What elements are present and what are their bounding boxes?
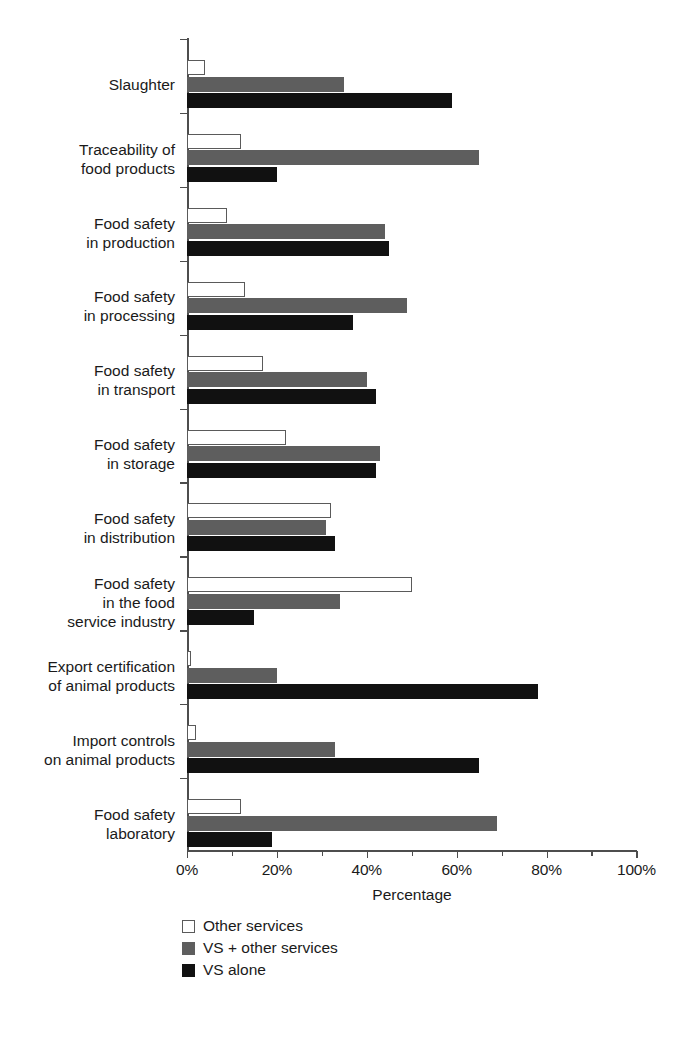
x-axis-minor-tick [232, 851, 233, 856]
bar-vs-alone [187, 536, 335, 551]
bar-vs-alone [187, 832, 272, 847]
x-axis-minor-tick [591, 851, 592, 856]
y-axis-tick [180, 335, 187, 336]
bar-vs-alone [187, 93, 452, 108]
y-axis-tick [180, 187, 187, 188]
bar-vs-plus-other-services [187, 150, 479, 165]
bar-vs-alone [187, 315, 353, 330]
legend-label: Other services [203, 917, 303, 935]
x-axis-tick [277, 851, 278, 858]
bar-vs-plus-other-services [187, 224, 385, 239]
category-label: Food safety in transport [0, 361, 175, 399]
legend-item: Other services [182, 915, 338, 937]
bar-vs-plus-other-services [187, 668, 277, 683]
bar-other-services [187, 725, 196, 740]
bar-vs-plus-other-services [187, 372, 367, 387]
legend-item: VS alone [182, 959, 338, 981]
bar-vs-plus-other-services [187, 594, 340, 609]
category-label: Slaughter [0, 75, 175, 94]
bar-vs-alone [187, 758, 479, 773]
x-axis-minor-tick [322, 851, 323, 856]
category-label: Traceability of food products [0, 140, 175, 178]
category-label: Export certification of animal products [0, 657, 175, 695]
legend-swatch-icon [182, 942, 195, 955]
bar-vs-plus-other-services [187, 298, 407, 313]
x-axis-tick-label: 80% [531, 861, 561, 879]
category-label: Food safety in the food service industry [0, 574, 175, 631]
plot-area [187, 38, 637, 850]
x-axis-tick-label: 20% [262, 861, 292, 879]
bar-vs-plus-other-services [187, 77, 344, 92]
category-label: Food safety in storage [0, 435, 175, 473]
x-axis-minor-tick [502, 851, 503, 856]
category-label: Food safety in production [0, 214, 175, 252]
bar-other-services [187, 356, 263, 371]
y-axis-tick [180, 778, 187, 779]
legend-label: VS + other services [203, 939, 338, 957]
y-axis-tick [180, 704, 187, 705]
y-axis-tick [180, 409, 187, 410]
x-axis-tick-label: 100% [617, 861, 656, 879]
x-axis-tick-label: 0% [176, 861, 198, 879]
bar-vs-alone [187, 684, 538, 699]
y-axis-tick [180, 113, 187, 114]
x-axis-tick-label: 60% [441, 861, 471, 879]
bar-vs-alone [187, 610, 254, 625]
x-axis-tick [187, 851, 188, 858]
bar-other-services [187, 799, 241, 814]
category-label: Food safety in processing [0, 287, 175, 325]
bar-vs-alone [187, 463, 376, 478]
x-axis-minor-tick [412, 851, 413, 856]
bar-other-services [187, 430, 286, 445]
bar-other-services [187, 282, 245, 297]
bar-vs-plus-other-services [187, 816, 497, 831]
bar-chart: SlaughterTraceability of food productsFo… [0, 0, 674, 1039]
bar-other-services [187, 60, 205, 75]
category-label: Food safety laboratory [0, 805, 175, 843]
legend-label: VS alone [203, 961, 266, 979]
x-axis-tick [636, 851, 637, 858]
x-axis-tick [457, 851, 458, 858]
y-axis-tick [180, 39, 187, 40]
bar-other-services [187, 208, 227, 223]
y-axis-tick [180, 556, 187, 557]
bar-other-services [187, 134, 241, 149]
bar-vs-alone [187, 167, 277, 182]
legend-item: VS + other services [182, 937, 338, 959]
legend-swatch-icon [182, 920, 195, 933]
bar-other-services [187, 503, 331, 518]
bar-vs-plus-other-services [187, 742, 335, 757]
bar-vs-alone [187, 241, 389, 256]
bar-vs-plus-other-services [187, 446, 380, 461]
y-axis-tick [180, 482, 187, 483]
y-axis-tick [180, 261, 187, 262]
category-label: Food safety in distribution [0, 509, 175, 547]
x-axis-tick-label: 40% [352, 861, 382, 879]
legend-swatch-icon [182, 964, 195, 977]
bar-other-services [187, 651, 191, 666]
bar-vs-alone [187, 389, 376, 404]
x-axis-tick [547, 851, 548, 858]
category-label: Import controls on animal products [0, 731, 175, 769]
chart-legend: Other servicesVS + other servicesVS alon… [182, 915, 338, 981]
y-axis-tick [180, 630, 187, 631]
bar-vs-plus-other-services [187, 520, 326, 535]
x-axis-tick [367, 851, 368, 858]
bar-other-services [187, 577, 412, 592]
x-axis-title: Percentage [187, 886, 637, 904]
